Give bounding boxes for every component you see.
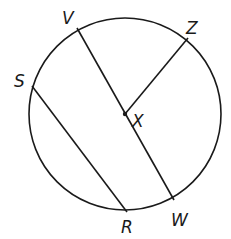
- center-point-x: [123, 112, 127, 116]
- radius-xz: [125, 38, 188, 114]
- label-w: W: [171, 210, 189, 230]
- label-s: S: [14, 71, 25, 91]
- label-x: X: [131, 111, 144, 131]
- label-v: V: [62, 8, 75, 28]
- label-z: Z: [185, 18, 198, 38]
- chord-sr: [32, 86, 127, 212]
- circle-diagram: V Z S X R W: [0, 0, 231, 239]
- label-r: R: [121, 217, 133, 237]
